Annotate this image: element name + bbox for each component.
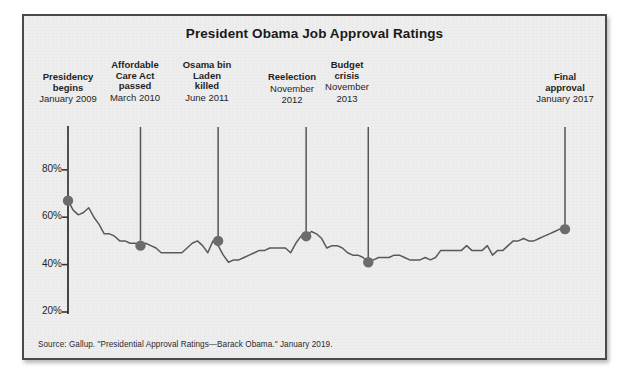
event-marker-group — [63, 195, 570, 267]
event-marker — [560, 224, 570, 234]
source-note: Source: Gallup. "Presidential Approval R… — [38, 340, 332, 349]
event-marker — [135, 240, 145, 250]
event-marker — [363, 257, 373, 267]
event-marker — [213, 236, 223, 246]
annotation-leader-lines — [68, 127, 565, 257]
plot-area — [24, 16, 609, 362]
event-marker — [301, 231, 311, 241]
approval-rating-line — [68, 201, 565, 263]
event-marker — [63, 195, 73, 205]
chart-figure: President Obama Job Approval Ratings Pre… — [22, 14, 607, 360]
